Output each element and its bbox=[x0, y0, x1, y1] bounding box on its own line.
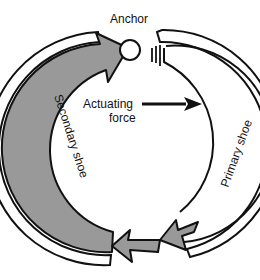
actuating-force-label-line1: Actuating bbox=[83, 97, 133, 111]
anchor-label: Anchor bbox=[110, 12, 148, 26]
primary-shoe-inner-edge bbox=[164, 48, 213, 212]
bottom-arrow-right bbox=[160, 220, 198, 250]
actuating-force-label-line2: force bbox=[109, 111, 136, 125]
bottom-arrow-left bbox=[112, 230, 160, 262]
actuating-force-arrow bbox=[142, 97, 202, 111]
anchor-spring-marks bbox=[152, 45, 160, 66]
primary-shoe-label: Primary shoe bbox=[218, 118, 255, 190]
brake-diagram: Anchor Actuating force Secondary shoe Pr… bbox=[0, 0, 260, 280]
primary-shoe-label-text: Primary shoe bbox=[218, 118, 255, 190]
anchor-pin bbox=[120, 40, 140, 60]
